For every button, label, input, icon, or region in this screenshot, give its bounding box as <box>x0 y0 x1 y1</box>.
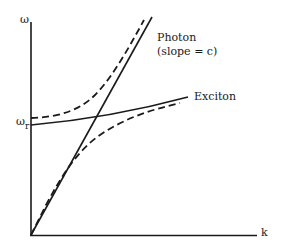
polariton-dispersion-diagram: ω ωr k Photon (slope = c) Exciton <box>0 0 283 250</box>
x-axis-label: k <box>261 227 268 239</box>
upper-polariton-curve <box>31 20 144 118</box>
omega-r-marker: ωr <box>16 116 29 132</box>
exciton-label: Exciton <box>194 91 236 103</box>
photon-line <box>31 17 152 235</box>
photon-label: Photon <box>157 32 196 44</box>
omega-r-subscript: r <box>25 121 29 131</box>
y-axis-label: ω <box>20 14 29 26</box>
photon-slope-label: (slope = c) <box>157 46 217 58</box>
omega-r-symbol: ω <box>16 115 25 128</box>
diagram-svg <box>0 0 283 250</box>
exciton-line <box>31 97 188 125</box>
